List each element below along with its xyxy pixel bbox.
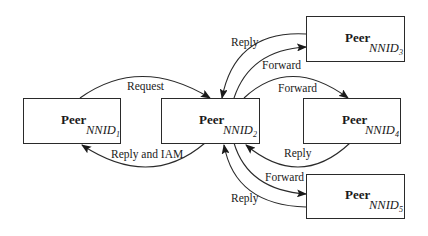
edge-label-reply-and-iam: Reply and IAM — [111, 148, 183, 160]
peer-title: Peer — [199, 112, 224, 128]
edge-label-request: Request — [127, 80, 164, 92]
nnid-label: NNID1 — [86, 123, 120, 139]
nnid-label: NNID4 — [365, 123, 399, 139]
peer-title: Peer — [345, 187, 370, 203]
edge-label-reply-n4: Reply — [284, 147, 311, 159]
peer-node-nnid2[interactable]: Peer NNID2 — [161, 98, 260, 144]
edge-label-forward-n4: Forward — [278, 82, 317, 94]
edge-label-forward-n5: Forward — [265, 171, 304, 183]
nnid-label: NNID3 — [369, 41, 403, 57]
nnid-label: NNID5 — [369, 198, 403, 214]
edge-label-forward-n3: Forward — [262, 59, 301, 71]
peer-node-nnid3[interactable]: Peer NNID3 — [306, 16, 405, 62]
peer-node-nnid5[interactable]: Peer NNID5 — [306, 174, 405, 219]
peer-node-nnid1[interactable]: Peer NNID1 — [23, 98, 121, 144]
peer-title: Peer — [61, 112, 86, 128]
edge-label-reply-n3: Reply — [231, 36, 258, 48]
edge-label-reply-n5: Reply — [231, 192, 258, 204]
peer-title: Peer — [345, 30, 370, 46]
nnid-label: NNID2 — [223, 123, 257, 139]
peer-node-nnid4[interactable]: Peer NNID4 — [303, 98, 401, 144]
peer-title: Peer — [342, 112, 367, 128]
